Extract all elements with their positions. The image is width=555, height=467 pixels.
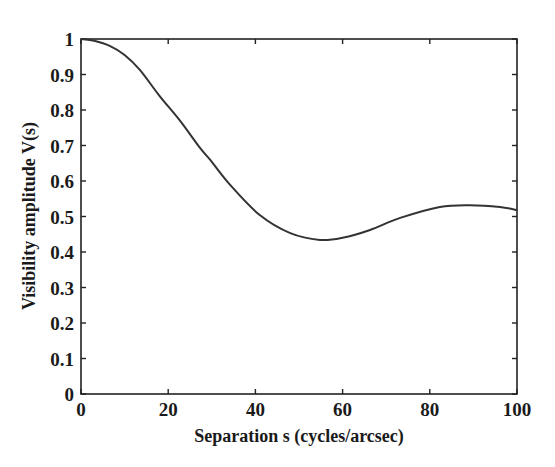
x-tick-labels: 020406080100	[76, 399, 531, 420]
y-tick-label: 1	[65, 29, 75, 50]
y-tick-label: 0	[65, 384, 75, 405]
x-tick-label: 100	[503, 399, 532, 420]
y-tick-label: 0.6	[50, 171, 74, 192]
x-tick-label: 40	[246, 399, 265, 420]
x-axis-label: Separation s (cycles/arcsec)	[194, 426, 404, 447]
y-tick-label: 0.7	[50, 136, 74, 157]
x-tick-label: 20	[159, 399, 178, 420]
chart: 020406080100 00.10.20.30.40.50.60.70.80.…	[0, 0, 555, 467]
y-tick-label: 0.3	[50, 278, 74, 299]
y-tick-label: 0.1	[50, 349, 74, 370]
axis-ticks	[81, 39, 517, 394]
y-tick-label: 0.2	[50, 313, 74, 334]
x-tick-label: 80	[420, 399, 439, 420]
y-tick-label: 0.8	[50, 100, 74, 121]
visibility-curve	[81, 39, 517, 240]
plot-frame	[81, 39, 517, 394]
y-tick-label: 0.4	[50, 242, 74, 263]
y-tick-label: 0.5	[50, 207, 74, 228]
x-tick-label: 0	[76, 399, 86, 420]
y-tick-labels: 00.10.20.30.40.50.60.70.80.91	[50, 29, 74, 405]
y-tick-label: 0.9	[50, 65, 74, 86]
x-tick-label: 60	[333, 399, 352, 420]
y-axis-label: Visibility amplitude V(s)	[19, 122, 40, 310]
